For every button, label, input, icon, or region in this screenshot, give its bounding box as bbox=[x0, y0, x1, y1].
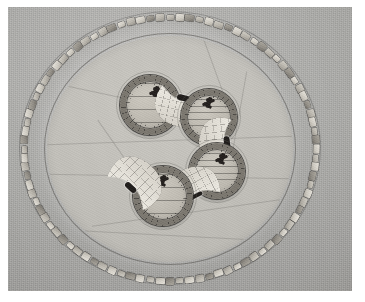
wall-stone bbox=[156, 14, 164, 21]
wall-stone bbox=[214, 269, 224, 278]
photo-plate bbox=[8, 7, 352, 291]
wall-stone bbox=[107, 265, 117, 275]
wall-stone bbox=[90, 32, 99, 40]
wall-stone bbox=[21, 153, 27, 162]
wall-stone bbox=[136, 274, 145, 282]
wall-stone bbox=[28, 100, 37, 110]
wall-stone bbox=[166, 14, 173, 19]
wall-stone bbox=[166, 277, 174, 284]
wall-stone bbox=[196, 16, 204, 23]
wall-stone bbox=[249, 252, 260, 262]
wall-stone bbox=[146, 15, 154, 21]
wall-stone bbox=[22, 126, 29, 136]
wall-stone bbox=[291, 76, 299, 85]
wall-stone bbox=[185, 15, 195, 22]
wall-stone bbox=[258, 247, 267, 255]
wall-stone bbox=[155, 277, 164, 283]
wall-stone bbox=[313, 154, 318, 161]
wall-stone bbox=[126, 272, 136, 280]
wall-stone bbox=[205, 273, 213, 280]
wall-stone bbox=[214, 20, 224, 28]
wall-stone bbox=[307, 181, 314, 189]
wall-stone bbox=[25, 179, 33, 189]
wall-stone bbox=[309, 117, 317, 127]
circular-enclosure bbox=[17, 10, 323, 288]
hut-figure-marker bbox=[202, 97, 216, 110]
wall-stone bbox=[21, 162, 29, 171]
wall-stone bbox=[117, 270, 125, 277]
wall-stone bbox=[97, 261, 108, 271]
wall-stone bbox=[312, 127, 318, 135]
wall-stone bbox=[135, 16, 145, 24]
wall-stone bbox=[176, 278, 183, 284]
page bbox=[0, 0, 365, 302]
wall-stone bbox=[185, 276, 195, 283]
wall-stone bbox=[24, 172, 30, 180]
wall-stone bbox=[24, 118, 30, 126]
wall-stone bbox=[195, 274, 204, 282]
wall-stone bbox=[233, 262, 242, 270]
wall-stone bbox=[224, 24, 232, 31]
wall-stone bbox=[126, 18, 135, 27]
wall-stone bbox=[22, 146, 27, 153]
wall-stone bbox=[80, 36, 91, 46]
wall-stone bbox=[304, 101, 311, 109]
wall-stone bbox=[223, 265, 233, 275]
wall-stone bbox=[279, 228, 287, 237]
wall-stone bbox=[32, 92, 39, 100]
wall-stone bbox=[311, 163, 319, 172]
hut-figure-marker bbox=[215, 153, 229, 166]
wall-stone bbox=[264, 240, 275, 251]
wall-stone bbox=[313, 144, 319, 153]
wall-stone bbox=[240, 31, 251, 41]
wall-stone bbox=[312, 136, 320, 145]
wall-stone bbox=[296, 205, 304, 213]
wall-stone bbox=[107, 23, 118, 32]
wall-stone bbox=[21, 136, 28, 144]
wall-stone bbox=[176, 13, 185, 21]
wall-stone bbox=[146, 277, 154, 283]
wall-stone bbox=[309, 171, 317, 181]
wall-stone bbox=[117, 21, 125, 28]
inner-scribed-circle bbox=[44, 33, 296, 265]
